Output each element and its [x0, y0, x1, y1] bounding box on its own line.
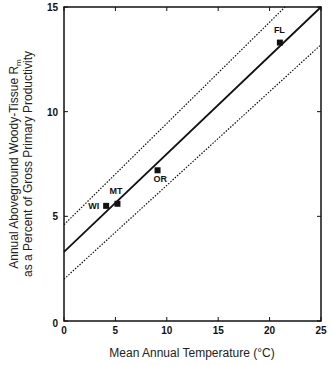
- y-axis-title: Annual Aboveground Woody-Tissue Rm as a …: [7, 51, 35, 277]
- x-tick-label: 10: [161, 325, 173, 336]
- x-tick-label: 25: [315, 325, 327, 336]
- y-tick-label: 10: [47, 107, 59, 118]
- axes: 0510152025051015: [47, 2, 327, 336]
- upper-confidence-bound-line: [64, 7, 285, 225]
- x-tick-label: 5: [113, 325, 119, 336]
- data-point-marker: [114, 201, 120, 207]
- lower-confidence-bound-line: [64, 45, 321, 279]
- x-tick-label: 15: [213, 325, 225, 336]
- data-point-label: MT: [109, 186, 122, 196]
- plot-area: WIMTORFL: [64, 7, 321, 279]
- data-point-marker: [103, 203, 109, 209]
- x-tick-label: 20: [264, 325, 276, 336]
- x-tick-label: 0: [61, 325, 67, 336]
- plot-frame: [64, 7, 321, 321]
- y-axis-title-line2: as a Percent of Gross Primary Productivi…: [21, 51, 35, 277]
- data-point-label: WI: [88, 201, 99, 211]
- data-point-label: OR: [154, 174, 168, 184]
- data-point-marker: [277, 40, 283, 46]
- y-tick-label: 15: [47, 2, 59, 13]
- data-point-label: FL: [274, 25, 285, 35]
- y-tick-label: 0: [52, 318, 58, 329]
- x-axis-title: Mean Annual Temperature (°C): [109, 346, 274, 360]
- data-point-marker: [155, 167, 161, 173]
- chart: WIMTORFL 0510152025051015 Mean Annual Te…: [0, 0, 331, 365]
- y-tick-label: 5: [52, 211, 58, 222]
